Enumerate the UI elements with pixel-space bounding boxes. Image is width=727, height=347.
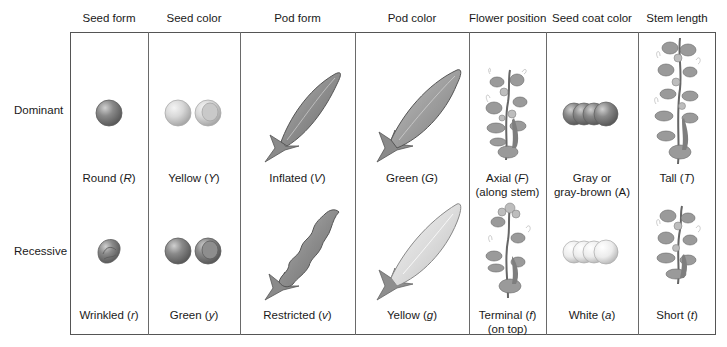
- caption-short: Short (t): [638, 308, 716, 322]
- row-label-recessive: Recessive: [14, 245, 67, 257]
- caption-tall: Tall (T): [638, 171, 716, 185]
- caption-terminal: Terminal (f) (on top): [469, 308, 546, 336]
- inflated-pod-icon: [255, 62, 345, 167]
- terminal-flower-plant-icon: [482, 200, 534, 300]
- restricted-pod-icon: [255, 200, 345, 305]
- header-seed-coat-color: Seed coat color: [546, 12, 638, 24]
- caption-yellow-pod: Yellow (g): [355, 308, 469, 322]
- caption-restricted: Restricted (v): [240, 308, 355, 322]
- short-plant-icon: [652, 204, 704, 286]
- caption-inflated: Inflated (V): [240, 171, 355, 185]
- caption-wrinkled: Wrinkled (r): [70, 308, 148, 322]
- caption-gray: Gray or gray-brown (A): [546, 171, 638, 199]
- caption-axial: Axial (F) (along stem): [469, 171, 546, 199]
- green-seeds-icon: [162, 236, 226, 266]
- header-seed-form: Seed form: [70, 12, 148, 24]
- caption-yellow-seed: Yellow (Y): [148, 171, 240, 185]
- caption-green-seed: Green (y): [148, 308, 240, 322]
- header-stem-length: Stem length: [638, 12, 716, 24]
- round-seed-icon: [94, 98, 124, 128]
- header-pod-form: Pod form: [240, 12, 355, 24]
- yellow-pod-icon: [365, 200, 465, 305]
- wrinkled-seed-icon: [94, 236, 124, 266]
- tall-plant-icon: [650, 34, 706, 166]
- header-pod-color: Pod color: [355, 12, 469, 24]
- header-seed-color: Seed color: [148, 12, 240, 24]
- gray-seed-coat-icon: [562, 98, 622, 130]
- caption-white: White (a): [546, 308, 638, 322]
- row-label-dominant: Dominant: [14, 104, 63, 116]
- header-flower-position: Flower position: [469, 12, 546, 24]
- caption-round: Round (R): [70, 171, 148, 185]
- white-seed-coat-icon: [562, 236, 622, 268]
- yellow-seeds-icon: [162, 98, 226, 128]
- green-pod-icon: [365, 62, 465, 167]
- axial-flower-plant-icon: [482, 62, 534, 162]
- caption-green-pod: Green (G): [355, 171, 469, 185]
